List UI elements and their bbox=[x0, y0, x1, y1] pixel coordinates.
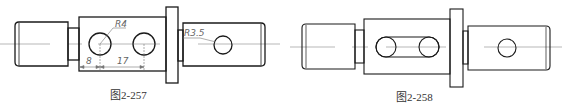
left-shaft bbox=[302, 24, 355, 69]
hole bbox=[498, 39, 516, 57]
left-neck bbox=[355, 30, 364, 63]
drawing-canvas: R4 R3.5 8 17 bbox=[0, 0, 568, 108]
label-r3-5: R3.5 bbox=[184, 28, 205, 38]
main-body bbox=[364, 19, 450, 74]
right-neck bbox=[463, 31, 468, 64]
label-dim-17: 17 bbox=[117, 56, 129, 66]
hole-r3-5 bbox=[214, 36, 232, 54]
caption-figure-2-258: 图2-258 bbox=[396, 88, 433, 104]
caption-figure-2-257: 图2-257 bbox=[110, 86, 147, 102]
right-shaft bbox=[468, 26, 550, 70]
figure-2-257: R4 R3.5 8 17 bbox=[0, 7, 280, 83]
figure-2-258 bbox=[290, 9, 562, 87]
flange bbox=[166, 7, 178, 83]
right-neck bbox=[178, 30, 183, 61]
label-dim-8: 8 bbox=[86, 56, 92, 66]
label-r4: R4 bbox=[115, 19, 127, 29]
flange bbox=[450, 9, 463, 87]
